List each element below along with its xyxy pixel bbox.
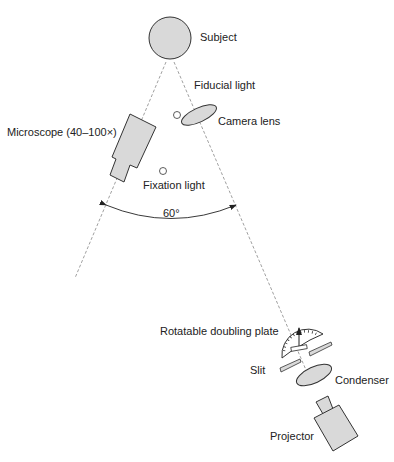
optical-diagram [0,0,394,462]
fixation-light-label: Fixation light [143,179,205,191]
fixation-light-icon [160,168,167,175]
doubling-plate-label: Rotatable doubling plate [160,325,279,337]
slit-icon [280,359,301,372]
slit-plate-upper-icon [309,342,332,356]
condenser-icon [293,360,334,391]
projector-label: Projector [270,430,314,442]
fiducial-light-label: Fiducial light [194,79,255,91]
subject-label: Subject [200,31,237,43]
angle-label: 60° [163,207,180,219]
projector-icon [314,396,358,451]
condenser-label: Condenser [335,374,389,386]
fiducial-light-icon [174,112,181,119]
subject-icon [149,17,191,59]
illumination-axis-line [174,62,306,370]
doubling-plate-icon [282,328,323,358]
microscope-icon [110,114,156,182]
slit-label: Slit [250,364,265,376]
camera-lens-label: Camera lens [218,115,280,127]
camera-lens-icon [179,101,219,130]
microscope-label: Microscope (40–100×) [7,126,117,138]
